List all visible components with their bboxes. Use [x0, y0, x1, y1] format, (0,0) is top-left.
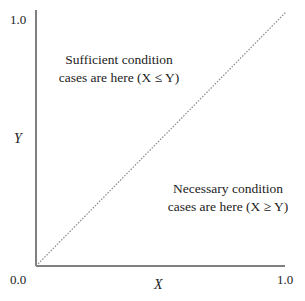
necessary-condition-line2: cases are here (X ≥ Y): [158, 198, 298, 216]
y-axis-top-tick: 1.0: [10, 12, 26, 28]
x-axis-label: X: [154, 277, 163, 293]
y-axis-label: Y: [14, 131, 22, 147]
sufficient-condition-line1: Sufficient condition: [54, 51, 184, 69]
necessary-condition-region-label: Necessary condition cases are here (X ≥ …: [158, 180, 298, 216]
sufficient-condition-region-label: Sufficient condition cases are here (X ≤…: [54, 51, 184, 87]
origin-label: 0.0: [10, 272, 26, 288]
necessary-condition-line1: Necessary condition: [158, 180, 298, 198]
x-axis-right-tick: 1.0: [277, 272, 293, 288]
diagram-canvas: [0, 0, 305, 301]
sufficient-condition-line2: cases are here (X ≤ Y): [54, 69, 184, 87]
